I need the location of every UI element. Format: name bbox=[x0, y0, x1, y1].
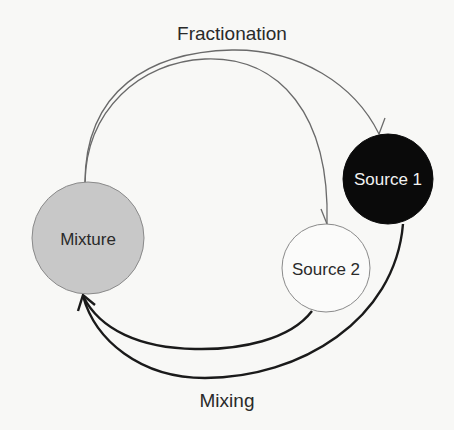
fractionation-arrow-to-source1 bbox=[85, 50, 385, 183]
mixing-arc-inner bbox=[83, 296, 312, 349]
source1-label: Source 1 bbox=[354, 170, 422, 189]
fractionation-mixing-diagram: Fractionation Mixing Mixture bbox=[0, 0, 454, 430]
arrowhead-icon bbox=[321, 209, 327, 224]
mixture-label: Mixture bbox=[60, 230, 116, 249]
diagram-svg: Fractionation Mixing Mixture bbox=[0, 0, 454, 430]
fractionation-arc-outer bbox=[85, 50, 379, 183]
node-mixture: Mixture bbox=[32, 182, 144, 294]
arrowhead-icon bbox=[379, 118, 385, 134]
source2-label: Source 2 bbox=[292, 260, 360, 279]
node-source1: Source 1 bbox=[343, 134, 433, 224]
node-source2: Source 2 bbox=[282, 224, 370, 312]
mixing-label: Mixing bbox=[200, 390, 255, 411]
fractionation-label: Fractionation bbox=[177, 23, 287, 44]
mixing-arrow-from-source2 bbox=[83, 296, 312, 349]
